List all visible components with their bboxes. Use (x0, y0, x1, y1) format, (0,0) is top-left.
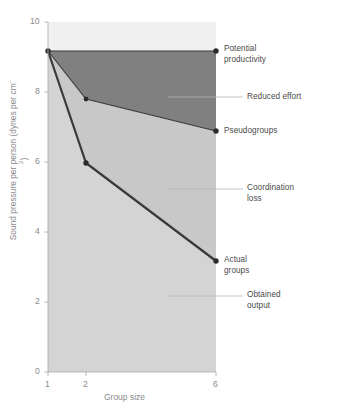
x-tick-label-1: 1 (45, 379, 50, 389)
y-tick-label-10: 10 (30, 16, 40, 26)
annotation-potential-productivity: Potential productivity (224, 44, 266, 65)
y-axis-label: Sound pressure per person (dynes per cm-… (7, 81, 29, 241)
headroom-region (48, 22, 216, 51)
annotation-obtained-output: Obtained output (247, 290, 281, 311)
chart-figure (0, 0, 337, 415)
x-tick-label-2: 2 (83, 379, 88, 389)
y-tick-label-2: 2 (35, 296, 40, 306)
y-tick-label-0: 0 (35, 366, 40, 376)
point-pseudogroups-6 (213, 128, 218, 133)
annotation-actual-groups: Actual groups (224, 255, 249, 276)
point-potential-productivity-6 (213, 48, 218, 53)
y-axis-label-text: Sound pressure per person (dynes per cm (8, 83, 18, 240)
annotation-coordination-loss: Coordination loss (247, 183, 294, 204)
x-tick-label-6: 6 (213, 379, 218, 389)
y-tick-label-6: 6 (35, 156, 40, 166)
point-actual-groups-6 (213, 258, 218, 263)
y-tick-label-4: 4 (35, 226, 40, 236)
point-pseudogroups-2 (84, 97, 89, 102)
x-axis-label: Group size (104, 392, 145, 402)
y-tick-label-8: 8 (35, 86, 40, 96)
annotation-pseudogroups: Pseudogroups (224, 126, 277, 137)
y-axis-label-suffix: ) (19, 158, 29, 161)
annotation-reduced-effort: Reduced effort (247, 92, 301, 103)
point-actual-groups-2 (83, 160, 88, 165)
